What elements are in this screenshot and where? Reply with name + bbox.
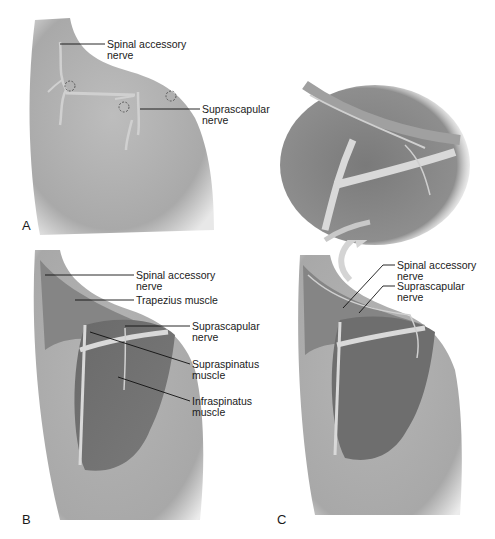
label-spinal-accessory-nerve: Spinal accessory nerve bbox=[136, 270, 215, 292]
label-trapezius-muscle: Trapezius muscle bbox=[136, 295, 218, 306]
label-infraspinatus-muscle: Infraspinatus muscle bbox=[192, 396, 252, 418]
panel-label-c: C bbox=[277, 512, 286, 527]
panel-label-a: A bbox=[22, 218, 31, 233]
panel-c: Spinal accessory nerve Suprascapular ner… bbox=[245, 240, 495, 539]
magnified-view-illustration bbox=[245, 0, 495, 250]
panel-c-inset bbox=[245, 0, 495, 250]
panel-a: Spinal accessory nerve Suprascapular ner… bbox=[0, 0, 250, 240]
label-suprascapular-nerve: Suprascapular nerve bbox=[397, 281, 465, 303]
panel-label-b: B bbox=[22, 512, 31, 527]
label-spinal-accessory-nerve: Spinal accessory nerve bbox=[397, 260, 476, 282]
label-spinal-accessory-nerve: Spinal accessory nerve bbox=[107, 39, 186, 61]
panel-b: Spinal accessory nerve Trapezius muscle … bbox=[0, 240, 250, 539]
